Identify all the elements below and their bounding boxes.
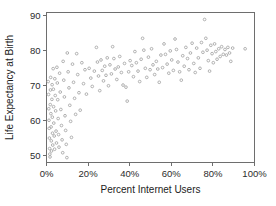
y-tick-label: 50	[30, 150, 41, 161]
data-point	[89, 77, 92, 80]
data-point	[214, 50, 217, 53]
data-point	[57, 133, 60, 136]
data-point	[123, 62, 126, 65]
data-point	[68, 104, 71, 107]
data-points-group	[47, 18, 247, 159]
data-point	[50, 140, 53, 143]
chart-canvas: 50607080900%20%40%60%80%100% Percent Int…	[0, 0, 276, 206]
data-point	[105, 74, 108, 77]
data-point	[52, 67, 55, 70]
data-point	[57, 117, 60, 120]
data-point	[55, 130, 58, 133]
data-point	[120, 71, 123, 74]
data-point	[49, 76, 52, 79]
data-point	[85, 93, 88, 96]
data-point	[172, 69, 175, 72]
data-point	[52, 105, 55, 108]
data-point	[64, 114, 67, 117]
data-point	[60, 108, 63, 111]
scatter-chart-figure: 50607080900%20%40%60%80%100% Percent Int…	[0, 0, 276, 206]
data-point	[62, 60, 65, 63]
x-tick-label: 80%	[203, 168, 223, 179]
data-point	[195, 47, 198, 50]
data-point	[93, 70, 96, 73]
data-point	[98, 89, 101, 92]
data-point	[103, 65, 106, 68]
data-point	[51, 83, 54, 86]
data-point	[102, 80, 105, 83]
data-point	[202, 51, 205, 54]
data-point	[216, 58, 219, 61]
data-point	[84, 68, 87, 71]
data-point	[106, 57, 109, 60]
data-point	[48, 119, 51, 122]
data-point	[213, 43, 216, 46]
data-point	[145, 76, 148, 79]
data-point	[54, 94, 57, 97]
data-point	[78, 91, 81, 94]
data-point	[50, 150, 53, 153]
data-point	[135, 61, 138, 64]
data-point	[200, 41, 203, 44]
data-point	[70, 136, 73, 139]
data-point	[153, 73, 156, 76]
data-point	[51, 144, 54, 147]
data-point	[169, 50, 172, 53]
data-point	[224, 48, 227, 51]
data-point	[72, 81, 75, 84]
data-point	[115, 78, 118, 81]
data-point	[137, 70, 140, 73]
data-point	[228, 52, 231, 55]
data-point	[97, 75, 100, 78]
data-point	[47, 93, 50, 96]
y-tick-label: 70	[30, 80, 41, 91]
data-point	[59, 91, 62, 94]
data-point	[177, 61, 180, 64]
data-point	[211, 52, 214, 55]
data-point	[51, 132, 54, 135]
data-point	[192, 62, 195, 65]
data-point	[53, 148, 56, 151]
data-point	[217, 47, 220, 50]
data-point	[49, 103, 52, 106]
data-point	[56, 82, 59, 85]
data-point	[52, 88, 55, 91]
data-point	[147, 56, 150, 59]
data-point	[181, 54, 184, 57]
data-point	[132, 75, 135, 78]
data-point	[107, 84, 110, 87]
data-point	[53, 135, 56, 138]
data-point	[158, 81, 161, 84]
data-point	[229, 60, 232, 63]
data-point	[140, 58, 143, 61]
data-point	[58, 72, 61, 75]
x-tick-label: 60%	[162, 168, 182, 179]
data-point	[180, 79, 183, 82]
data-point	[129, 59, 132, 62]
data-point	[170, 59, 173, 62]
data-point	[125, 86, 128, 89]
data-point	[212, 61, 215, 64]
data-point	[66, 156, 69, 159]
plot-frame	[47, 13, 255, 163]
data-point	[109, 63, 112, 66]
data-point	[55, 142, 58, 145]
y-tick-label: 90	[30, 10, 41, 21]
data-point	[61, 138, 64, 141]
data-point	[161, 66, 164, 69]
data-point	[167, 72, 170, 75]
data-point	[225, 54, 228, 57]
data-point	[197, 57, 200, 60]
data-point	[58, 146, 61, 149]
data-point	[67, 70, 70, 73]
data-point	[47, 80, 50, 83]
data-point	[118, 55, 121, 58]
axes-group	[47, 13, 255, 163]
data-point	[56, 98, 59, 101]
data-point	[220, 45, 223, 48]
data-point	[160, 54, 163, 57]
x-axis-title: Percent Internet Users	[100, 184, 200, 195]
data-point	[64, 129, 67, 132]
data-point	[164, 53, 167, 56]
data-point	[117, 66, 120, 69]
